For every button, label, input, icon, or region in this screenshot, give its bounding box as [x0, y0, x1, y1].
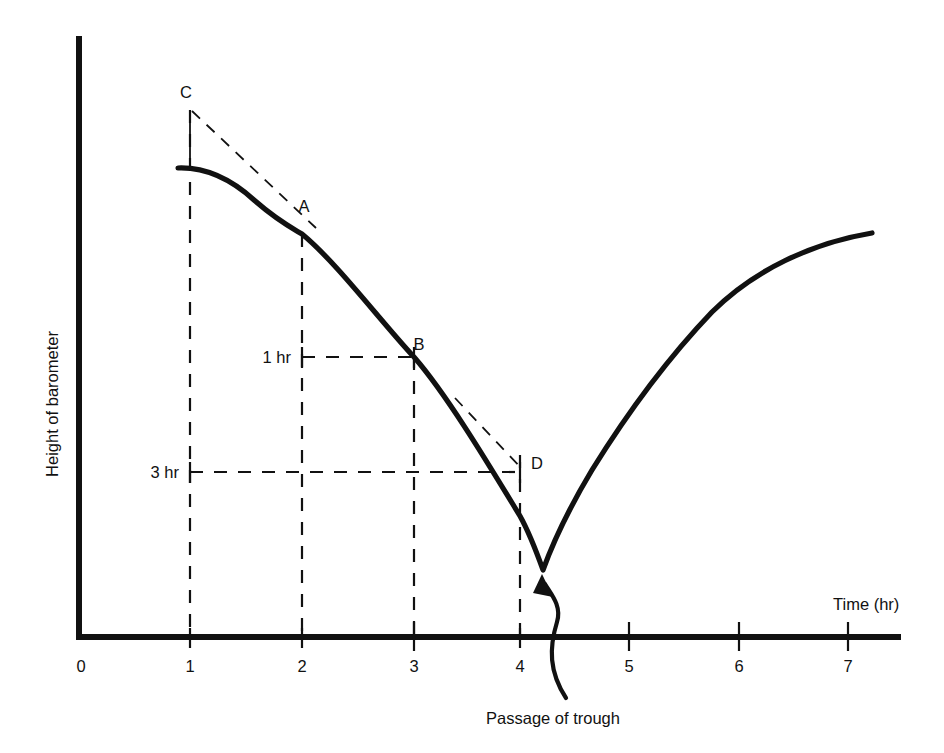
tangent-line-c-to-curve [192, 111, 316, 228]
point-label-b: B [413, 335, 424, 353]
x-tick-label-4: 4 [515, 657, 524, 675]
x-tick-label-6: 6 [734, 657, 743, 675]
barometer-chart: 0 1 2 3 4 5 6 7 [0, 0, 944, 753]
point-labels-group: C A B D [180, 83, 543, 472]
x-tick-label-1: 1 [185, 657, 194, 675]
point-label-d: D [531, 454, 543, 472]
interval-labels-group: 1 hr 3 hr [151, 348, 292, 481]
y-axis-title: Height of barometer [43, 331, 61, 477]
x-tick-label-0: 0 [76, 657, 85, 675]
point-label-a: A [298, 197, 309, 215]
trough-callout-arrow-head [533, 574, 553, 597]
x-tick-label-3: 3 [409, 657, 418, 675]
point-label-c: C [180, 83, 192, 101]
data-curve-group [178, 168, 872, 570]
axes-group [76, 36, 901, 637]
trough-callout-label: Passage of trough [486, 709, 620, 727]
x-axis-title: Time (hr) [833, 595, 899, 613]
x-tick-label-7: 7 [843, 657, 852, 675]
figure-root: 0 1 2 3 4 5 6 7 [0, 0, 944, 753]
x-tick-labels: 0 1 2 3 4 5 6 7 [76, 657, 852, 675]
x-tick-label-2: 2 [297, 657, 306, 675]
x-tick-label-5: 5 [624, 657, 633, 675]
trough-callout-arrow-shaft [545, 584, 566, 698]
interval-label-1hr: 1 hr [263, 348, 292, 366]
barometer-trace-curve [178, 168, 872, 570]
tangent-line-b-to-d [455, 398, 523, 470]
interval-label-3hr: 3 hr [151, 463, 180, 481]
trough-callout-group: Passage of trough [486, 574, 620, 727]
